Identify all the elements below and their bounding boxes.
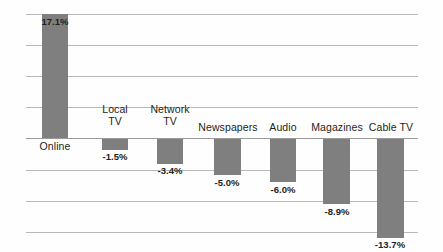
category-label-audio: Audio — [256, 122, 310, 134]
bar-network-tv — [157, 139, 183, 164]
value-label-cable-tv: -13.7% — [360, 240, 420, 250]
value-label-network-tv: -3.4% — [140, 166, 200, 176]
category-label-online: Online — [25, 141, 85, 153]
bar-cable-tv — [377, 139, 404, 238]
bar-chart: Online Local TV Network TV Newspapers Au… — [0, 0, 443, 252]
value-label-audio: -6.0% — [253, 185, 313, 195]
value-label-magazines: -8.9% — [307, 207, 367, 217]
category-label-magazines-line1: Magazines — [311, 121, 363, 133]
bar-online — [42, 14, 68, 138]
bar-audio — [270, 139, 296, 182]
value-label-newspapers: -5.0% — [197, 178, 257, 188]
category-label-network-tv-line1: Network — [150, 103, 189, 115]
category-label-online-line1: Online — [40, 140, 71, 152]
bar-newspapers — [214, 139, 241, 175]
category-label-audio-line1: Audio — [269, 121, 296, 133]
value-label-online: 17.1% — [25, 17, 85, 27]
category-label-newspapers: Newspapers — [192, 122, 264, 134]
category-label-local-tv-line2: TV — [108, 115, 122, 127]
category-label-local-tv-line1: Local — [102, 103, 128, 115]
category-label-cable-tv-line1: Cable TV — [369, 121, 413, 133]
bar-magazines — [323, 139, 350, 204]
category-label-cable-tv: Cable TV — [361, 122, 421, 134]
value-label-local-tv: -1.5% — [85, 152, 145, 162]
category-label-network-tv-line2: TV — [163, 115, 177, 127]
category-label-newspapers-line1: Newspapers — [198, 121, 257, 133]
bar-local-tv — [102, 139, 128, 150]
category-label-local-tv: Local TV — [85, 104, 145, 127]
